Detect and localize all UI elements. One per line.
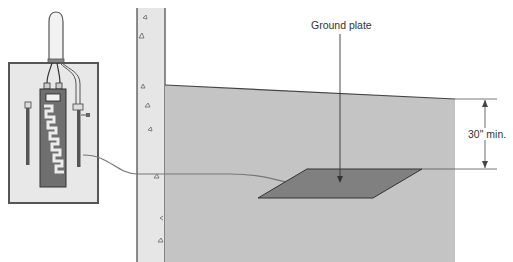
electrical-panel	[9, 63, 98, 203]
foundation-wall	[137, 8, 165, 262]
depth-label: 30" min.	[467, 128, 507, 140]
grounding-diagram	[0, 0, 513, 262]
ground-plate-label: Ground plate	[311, 19, 372, 31]
service-mast	[48, 12, 64, 63]
